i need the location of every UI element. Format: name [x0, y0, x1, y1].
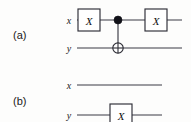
- panel-a-x-gate-2-label: X: [152, 15, 161, 27]
- panel-a-cnot-target[interactable]: [113, 43, 123, 53]
- panel-a-x-gate-2[interactable]: X: [145, 9, 167, 31]
- panel-a-wire-y: y: [66, 43, 182, 54]
- panel-a-wire-y-label: y: [66, 43, 72, 54]
- panel-b-wire-x-label: x: [66, 80, 72, 91]
- panel-a-label: (a): [13, 29, 26, 41]
- panel-b: (b) x y X: [13, 80, 162, 122]
- panel-b-wire-x: x: [66, 80, 162, 91]
- panel-a-x-gate-1-label: X: [85, 15, 94, 27]
- panel-b-x-gate-1-label: X: [117, 110, 126, 122]
- panel-a: (a) x y X: [13, 9, 182, 54]
- panel-a-cnot-control-dot[interactable]: [114, 16, 122, 24]
- panel-a-x-gate-1[interactable]: X: [78, 9, 100, 31]
- panel-b-x-gate-1[interactable]: X: [110, 104, 132, 122]
- circuit-canvas: (a) x y X: [0, 0, 191, 122]
- panel-a-wire-x-label: x: [66, 15, 72, 26]
- quantum-circuit-figure: (a) x y X: [0, 0, 191, 122]
- panel-b-wire-y-label: y: [66, 110, 72, 121]
- panel-b-label: (b): [13, 95, 26, 107]
